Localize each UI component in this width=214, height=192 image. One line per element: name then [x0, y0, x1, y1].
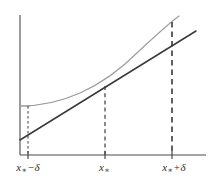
- plot-canvas: [0, 0, 214, 192]
- tangent-line: [20, 31, 196, 140]
- figure-root: x∗−δ x∗ x∗+δ: [0, 0, 214, 192]
- convex-curve: [20, 16, 179, 106]
